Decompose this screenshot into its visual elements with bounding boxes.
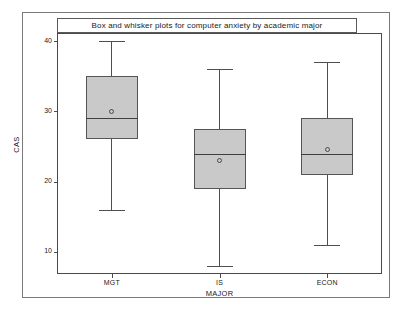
x-axis-tick-mark xyxy=(112,274,113,278)
chart-title-box: Box and whisker plots for computer anxie… xyxy=(57,18,357,33)
x-axis-zone: MAJOR MGTISECON xyxy=(58,274,381,298)
chart-title: Box and whisker plots for computer anxie… xyxy=(92,21,323,30)
x-axis-label: MAJOR xyxy=(58,289,381,298)
x-axis-tick-label-mgt: MGT xyxy=(82,279,142,286)
x-axis-tick-mark xyxy=(327,274,328,278)
median-line xyxy=(301,154,353,155)
whisker-cap-lower xyxy=(314,245,340,246)
whisker-cap-upper xyxy=(314,62,340,63)
y-axis-tick-label: 30 xyxy=(36,107,52,116)
box-iqr xyxy=(301,118,353,174)
whisker-lower xyxy=(327,175,328,245)
y-axis-tick-text: 10 xyxy=(44,247,52,254)
x-axis-tick-label-is: IS xyxy=(190,279,250,286)
plot-area xyxy=(58,34,381,273)
y-axis-tick-label: 20 xyxy=(36,177,52,186)
whisker-upper xyxy=(327,62,328,118)
figure-root: Box and whisker plots for computer anxie… xyxy=(0,0,412,313)
boxplot-econ xyxy=(58,34,381,273)
x-axis-tick-label-econ: ECON xyxy=(297,279,357,286)
y-axis-tick-label: 40 xyxy=(36,37,52,46)
x-axis-tick-mark xyxy=(220,274,221,278)
y-axis-tick-label: 10 xyxy=(36,247,52,256)
y-axis-tick-text: 20 xyxy=(44,177,52,184)
y-axis-tick-text: 40 xyxy=(44,37,52,44)
y-axis-tick-text: 30 xyxy=(44,107,52,114)
y-axis-label: CAS xyxy=(12,125,21,165)
